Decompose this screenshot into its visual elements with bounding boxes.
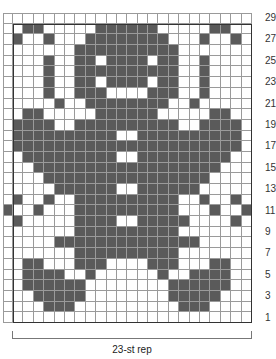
chart-cell	[34, 120, 44, 131]
chart-cell	[117, 99, 127, 110]
chart-cell	[242, 109, 252, 120]
chart-cell	[200, 259, 210, 270]
chart-cell	[55, 259, 65, 270]
chart-cell	[3, 77, 13, 88]
chart-cell	[242, 88, 252, 99]
chart-cell	[127, 280, 137, 291]
chart-cell	[117, 88, 127, 99]
chart-cell	[34, 227, 44, 238]
chart-cell	[179, 184, 189, 195]
chart-cell	[13, 173, 23, 184]
chart-cell	[242, 227, 252, 238]
chart-cell	[75, 24, 85, 35]
chart-cell	[179, 216, 189, 227]
chart-cell	[86, 302, 96, 313]
chart-cell	[65, 109, 75, 120]
chart-cell	[23, 141, 33, 152]
chart-cell	[117, 227, 127, 238]
chart-cell	[55, 302, 65, 313]
chart-cell	[23, 77, 33, 88]
chart-cell	[200, 99, 210, 110]
chart-cell	[23, 195, 33, 206]
chart-cell	[55, 163, 65, 174]
chart-cell	[221, 66, 231, 77]
chart-cell	[210, 302, 220, 313]
row-label: 23	[265, 77, 276, 88]
chart-cell	[190, 195, 200, 206]
chart-cell	[127, 270, 137, 281]
chart-cell	[75, 34, 85, 45]
chart-cell	[148, 173, 158, 184]
chart-cell	[107, 56, 117, 67]
chart-cell	[210, 216, 220, 227]
chart-cell	[200, 56, 210, 67]
chart-grid	[3, 13, 252, 323]
chart-cell	[200, 13, 210, 24]
chart-cell	[242, 237, 252, 248]
chart-cell	[158, 152, 168, 163]
chart-cell	[210, 312, 220, 323]
chart-cell	[169, 259, 179, 270]
chart-cell	[75, 195, 85, 206]
chart-cell	[44, 280, 54, 291]
chart-cell	[34, 184, 44, 195]
chart-cell	[179, 248, 189, 259]
chart-cell	[3, 216, 13, 227]
chart-cell	[210, 131, 220, 142]
chart-cell	[13, 120, 23, 131]
chart-cell	[13, 302, 23, 313]
chart-cell	[210, 195, 220, 206]
chart-cell	[107, 227, 117, 238]
chart-cell	[3, 120, 13, 131]
chart-cell	[86, 237, 96, 248]
chart-cell	[96, 163, 106, 174]
chart-cell	[34, 302, 44, 313]
chart-cell	[138, 302, 148, 313]
chart-cell	[127, 237, 137, 248]
chart-cell	[138, 195, 148, 206]
chart-cell	[117, 77, 127, 88]
chart-cell	[200, 141, 210, 152]
chart-cell	[221, 109, 231, 120]
chart-cell	[200, 227, 210, 238]
chart-cell	[65, 99, 75, 110]
chart-cell	[3, 109, 13, 120]
chart-cell	[138, 120, 148, 131]
chart-cell	[169, 173, 179, 184]
chart-cell	[96, 312, 106, 323]
chart-cell	[3, 88, 13, 99]
chart-cell	[190, 77, 200, 88]
chart-cell	[65, 280, 75, 291]
chart-cell	[23, 205, 33, 216]
chart-cell	[96, 66, 106, 77]
chart-cell	[3, 291, 13, 302]
chart-cell	[107, 173, 117, 184]
chart-cell	[158, 163, 168, 174]
chart-cell	[138, 109, 148, 120]
chart-cell	[107, 120, 117, 131]
chart-cell	[34, 216, 44, 227]
chart-cell	[107, 24, 117, 35]
chart-cell	[242, 195, 252, 206]
chart-cell	[138, 259, 148, 270]
chart-cell	[242, 152, 252, 163]
chart-cell	[242, 99, 252, 110]
chart-cell	[179, 120, 189, 131]
chart-cell	[158, 248, 168, 259]
chart-cell	[158, 227, 168, 238]
chart-cell	[231, 312, 241, 323]
chart-cell	[107, 141, 117, 152]
chart-cell	[13, 237, 23, 248]
chart-cell	[23, 34, 33, 45]
chart-cell	[75, 237, 85, 248]
chart-cell	[13, 184, 23, 195]
chart-cell	[117, 195, 127, 206]
chart-cell	[190, 13, 200, 24]
chart-cell	[44, 184, 54, 195]
chart-cell	[3, 45, 13, 56]
chart-cell	[169, 34, 179, 45]
chart-cell	[34, 56, 44, 67]
chart-cell	[127, 312, 137, 323]
chart-cell	[169, 270, 179, 281]
chart-cell	[23, 259, 33, 270]
